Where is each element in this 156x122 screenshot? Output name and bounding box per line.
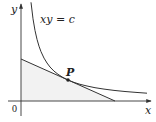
- origin-label: 0: [12, 103, 17, 114]
- curve-equation-label: xy = c: [40, 13, 75, 26]
- x-axis-label: x: [145, 104, 152, 117]
- y-axis-label: y: [10, 3, 18, 16]
- hyperbola-tangent-diagram: y x 0 xy = c P: [0, 0, 156, 122]
- point-p-label: P: [65, 66, 75, 79]
